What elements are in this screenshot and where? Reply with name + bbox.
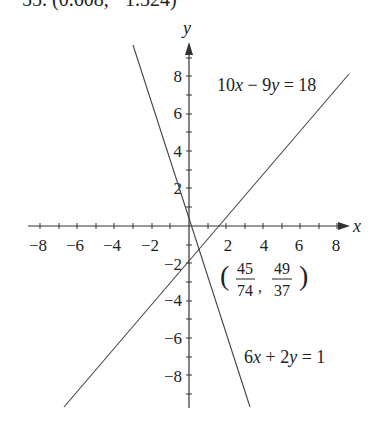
svg-text:4: 4 (174, 142, 183, 161)
y-arrow-icon (185, 42, 193, 55)
x-arrow-icon (338, 222, 350, 230)
svg-text:−8: −8 (29, 236, 47, 255)
svg-text:37: 37 (274, 282, 290, 299)
svg-text:49: 49 (274, 260, 290, 277)
svg-text:(: ( (220, 260, 229, 291)
svg-text:−8: −8 (164, 367, 182, 386)
equation-label-2: 6x + 2y = 1 (244, 347, 325, 367)
intersection-label: ( 45 74 , 49 37 ) (220, 260, 308, 299)
svg-text:−2: −2 (141, 236, 159, 255)
svg-text:−4: −4 (164, 291, 183, 310)
equation-label-1: 10x − 9y = 18 (217, 75, 316, 95)
svg-text:−6: −6 (66, 236, 84, 255)
svg-text:8: 8 (332, 236, 341, 255)
y-axis (185, 42, 193, 408)
svg-text:,: , (258, 278, 262, 295)
svg-text:−4: −4 (103, 236, 122, 255)
svg-text:6: 6 (295, 236, 304, 255)
y-axis-label: y (181, 18, 191, 38)
svg-text:6: 6 (174, 104, 183, 123)
svg-text:−6: −6 (164, 329, 182, 348)
svg-text:4: 4 (260, 236, 269, 255)
svg-text:−2: −2 (164, 255, 182, 274)
graph: x y −8 −6 −4 −2 2 4 6 8 8 6 4 2 −2 −4 −6… (0, 0, 382, 424)
svg-text:45: 45 (237, 260, 253, 277)
svg-text:74: 74 (237, 282, 253, 299)
x-tick-labels: −8 −6 −4 −2 2 4 6 8 (29, 236, 340, 255)
svg-text:8: 8 (174, 67, 183, 86)
x-axis-label: x (352, 216, 361, 236)
svg-text:2: 2 (224, 236, 233, 255)
svg-text:): ) (299, 260, 308, 291)
